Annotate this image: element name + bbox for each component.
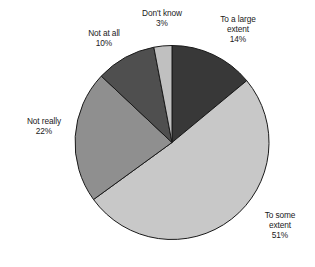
pie-label-dont-know: Don't know 3% bbox=[122, 8, 202, 28]
pie-label-not-really: Not really 22% bbox=[6, 116, 82, 136]
pie-label-to-a-large-extent: To a large extent 14% bbox=[200, 14, 276, 45]
pie-chart: To a large extent 14% To some extent 51%… bbox=[0, 0, 315, 267]
pie-slices-group bbox=[75, 46, 269, 240]
pie-label-not-at-all: Not at all 10% bbox=[66, 28, 142, 48]
pie-label-to-some-extent: To some extent 51% bbox=[246, 210, 314, 241]
